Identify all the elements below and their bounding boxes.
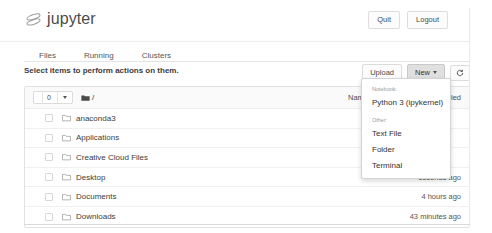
breadcrumb[interactable]: /	[81, 93, 94, 102]
file-name[interactable]: Downloads	[76, 212, 116, 221]
logout-button[interactable]: Logout	[407, 11, 448, 29]
jupyter-file-browser-page: jupyter Quit Logout Files Running Cluste…	[0, 0, 492, 233]
selection-control[interactable]: 0	[33, 91, 73, 104]
row-checkbox[interactable]	[45, 173, 53, 181]
folder-filled-icon	[81, 94, 90, 102]
row-checkbox[interactable]	[45, 114, 53, 122]
folder-icon	[53, 114, 71, 122]
folder-icon	[53, 134, 71, 142]
select-all-checkbox[interactable]	[34, 92, 43, 103]
bottom-divider	[24, 224, 470, 225]
row-checkbox[interactable]	[45, 134, 53, 142]
breadcrumb-root[interactable]: /	[92, 93, 94, 102]
dropdown-item-text-file[interactable]: Text File	[362, 125, 450, 141]
folder-icon	[53, 173, 71, 181]
refresh-icon	[456, 69, 464, 77]
folder-icon	[53, 213, 71, 221]
jupyter-logo-text: jupyter	[47, 10, 96, 28]
row-checkbox[interactable]	[45, 153, 53, 161]
tabs-divider	[24, 61, 470, 62]
header-divider	[0, 41, 470, 42]
file-name[interactable]: Creative Cloud Files	[76, 153, 148, 162]
dropdown-header-notebook: Notebook:	[362, 83, 450, 94]
file-row-documents[interactable]: Documents 4 hours ago	[25, 187, 469, 207]
file-name[interactable]: anaconda3	[76, 114, 116, 123]
selected-count: 0	[43, 92, 57, 103]
header-buttons: Quit Logout	[368, 11, 448, 29]
folder-icon	[53, 193, 71, 201]
dropdown-item-terminal[interactable]: Terminal	[362, 157, 450, 173]
new-dropdown-menu: Notebook: Python 3 (ipykernel) Other: Te…	[361, 78, 451, 179]
dropdown-item-folder[interactable]: Folder	[362, 141, 450, 157]
selection-hint: Select items to perform actions on them.	[24, 66, 179, 75]
right-edge-divider	[469, 8, 470, 226]
row-checkbox[interactable]	[45, 193, 53, 201]
new-button-label: New	[415, 69, 430, 77]
file-name[interactable]: Desktop	[76, 173, 105, 182]
selection-dropdown-toggle[interactable]	[57, 92, 72, 103]
page-header: jupyter Quit Logout	[0, 0, 470, 42]
chevron-down-icon	[63, 96, 67, 99]
file-modified: 43 minutes ago	[410, 212, 461, 221]
file-name[interactable]: Documents	[76, 192, 116, 201]
row-checkbox[interactable]	[45, 213, 53, 221]
dropdown-item-python3[interactable]: Python 3 (ipykernel)	[362, 94, 450, 110]
file-modified: 4 hours ago	[421, 192, 461, 201]
quit-button[interactable]: Quit	[368, 11, 400, 29]
dropdown-header-other: Other:	[362, 114, 450, 125]
folder-icon	[53, 153, 71, 161]
chevron-down-icon	[433, 71, 437, 74]
jupyter-logo[interactable]: jupyter	[25, 10, 96, 28]
refresh-button[interactable]	[450, 65, 470, 81]
file-name[interactable]: Applications	[76, 133, 119, 142]
jupyter-planet-icon	[25, 11, 42, 28]
